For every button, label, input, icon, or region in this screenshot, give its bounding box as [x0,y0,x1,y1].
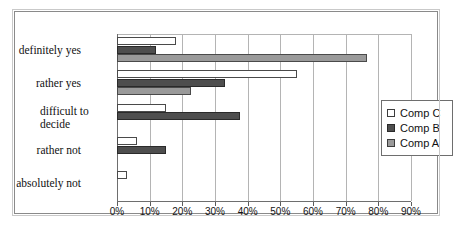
category-label-3: rather not [0,144,81,157]
bar-comp-b-3 [117,146,166,154]
legend-item-comp-b[interactable]: Comp B [387,120,447,135]
legend-label: Comp A [400,137,439,149]
bar-comp-c-3 [117,137,137,145]
series-b-swatch [387,124,395,132]
chart-legend: Comp CComp BComp A [381,100,453,156]
bar-comp-b-0 [117,46,156,54]
series-c-swatch [387,109,395,117]
legend-label: Comp C [400,107,440,119]
plot-bottom-rule [117,201,411,202]
category-label-4: absolutely not [0,177,81,190]
category-label-2: difficult to decide [40,105,112,131]
bar-comp-c-0 [117,37,176,45]
tick-label-90: 90% [391,206,431,217]
category-label-0: definitely yes [0,44,81,57]
bar-comp-b-2 [117,112,240,120]
legend-item-comp-c[interactable]: Comp C [387,105,447,120]
bar-comp-a-1 [117,87,191,95]
legend-item-comp-a[interactable]: Comp A [387,135,447,150]
bar-comp-c-1 [117,70,297,78]
series-a-swatch [387,139,395,147]
bar-comp-c-2 [117,104,166,112]
bar-comp-b-1 [117,79,225,87]
plot-area [117,34,411,201]
legend-label: Comp B [400,122,440,134]
category-label-1: rather yes [0,77,81,90]
bar-comp-c-4 [117,171,127,179]
chart-frame: definitely yesrather yesdifficult to dec… [14,11,438,214]
bar-comp-a-0 [117,54,367,62]
gridline-80pct [378,34,379,201]
